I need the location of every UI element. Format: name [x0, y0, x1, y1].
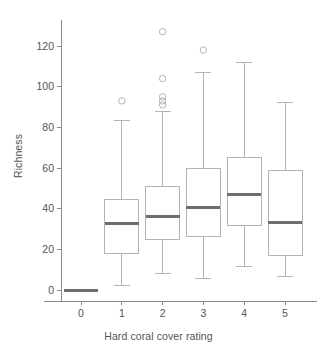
y-tick-label: 40: [42, 202, 54, 214]
x-tick-label: 1: [119, 307, 125, 319]
outlier-point: [159, 75, 165, 81]
y-tick-label: 20: [42, 243, 54, 255]
x-tick-label: 0: [78, 307, 84, 319]
y-tick-label: 0: [48, 284, 54, 296]
x-tick-label: 4: [241, 307, 247, 319]
box-iqr: [105, 200, 139, 254]
box-iqr: [146, 186, 180, 239]
box-iqr: [268, 170, 302, 255]
outlier-point: [159, 94, 165, 100]
outlier-point: [119, 98, 125, 104]
x-tick-label: 3: [200, 307, 206, 319]
x-tick-label: 2: [160, 307, 166, 319]
plot-canvas: 020406080100120 012345: [0, 0, 317, 355]
box-plot-item: [146, 29, 180, 274]
y-tick-label: 80: [42, 121, 54, 133]
y-tick-label: 100: [36, 80, 54, 92]
box-iqr: [227, 158, 261, 226]
box-plot-item: [186, 47, 220, 279]
y-tick-label: 120: [36, 40, 54, 52]
x-axis: 012345: [44, 301, 317, 319]
box-plot-item: [227, 62, 261, 266]
box-plot-item: [268, 103, 302, 277]
box-plot-item: [105, 98, 139, 286]
y-axis: 020406080100120: [36, 20, 61, 303]
box-series: [64, 29, 302, 290]
box-iqr: [186, 168, 220, 236]
outlier-point: [159, 29, 165, 35]
boxplot-figure: Richness Hard coral cover rating 0204060…: [0, 0, 317, 355]
y-tick-label: 60: [42, 162, 54, 174]
x-tick-label: 5: [282, 307, 288, 319]
outlier-point: [200, 47, 206, 53]
